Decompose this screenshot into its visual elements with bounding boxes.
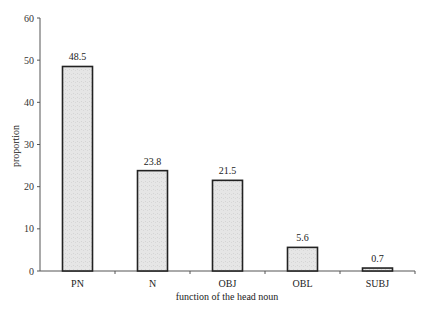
bar-obj: 21.5OBJ	[213, 165, 243, 289]
category-label: SUBJ	[366, 278, 389, 289]
category-label: OBJ	[219, 278, 237, 289]
bar-obl: 5.6OBL	[288, 232, 318, 289]
bar-value-label: 5.6	[296, 232, 309, 243]
bar-value-label: 48.5	[69, 51, 87, 62]
bar-value-label: 21.5	[219, 165, 237, 176]
category-label: OBL	[293, 278, 313, 289]
bar-rect	[213, 180, 243, 271]
y-tick-label: 60	[24, 13, 34, 24]
y-tick-label: 0	[29, 266, 34, 277]
bars: 48.5PN23.8N21.5OBJ5.6OBL0.7SUBJ	[63, 51, 393, 289]
category-label: PN	[71, 278, 84, 289]
y-tick-label: 20	[24, 181, 34, 192]
category-label: N	[149, 278, 156, 289]
bar-rect	[363, 268, 393, 271]
bar-value-label: 0.7	[371, 253, 384, 264]
y-tick-label: 40	[24, 97, 34, 108]
bar-n: 23.8N	[138, 156, 168, 289]
x-axis-title: function of the head noun	[176, 291, 279, 302]
y-tick-label: 30	[24, 139, 34, 150]
bar-value-label: 23.8	[144, 156, 162, 167]
bar-pn: 48.5PN	[63, 51, 93, 289]
y-tick-label: 50	[24, 55, 34, 66]
y-tick-label: 10	[24, 223, 34, 234]
bar-rect	[63, 66, 93, 271]
bar-subj: 0.7SUBJ	[363, 253, 393, 289]
y-axis: 0102030405060	[24, 13, 40, 277]
bar-chart: 0102030405060 48.5PN23.8N21.5OBJ5.6OBL0.…	[0, 0, 426, 314]
bar-rect	[138, 171, 168, 271]
bar-rect	[288, 247, 318, 271]
y-axis-title: proportion	[10, 125, 21, 167]
